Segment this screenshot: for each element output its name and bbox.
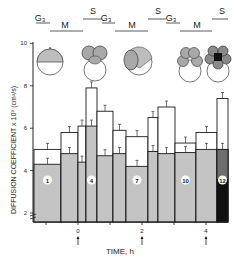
phase-label: M (61, 20, 69, 30)
svg-text:12: 12 (219, 178, 226, 184)
phase-label: G₃ (166, 13, 177, 23)
bar-lower (175, 153, 196, 222)
bar-lower (97, 156, 113, 222)
phase-label: M (193, 20, 201, 30)
phase-label: S (155, 6, 161, 16)
svg-text:10: 10 (182, 178, 189, 184)
bar-lower (34, 164, 61, 222)
phase-label: M (128, 20, 136, 30)
y-tick-label: 4 (24, 168, 28, 174)
bar-lower (148, 152, 158, 222)
bar-lower (86, 126, 97, 222)
one-cell-embryo-icon (37, 47, 63, 75)
bar-series: 1471012 (34, 82, 228, 222)
y-tick-label: 8 (24, 83, 28, 89)
diffusion-chart: G₃MSG₃MSG₃MS (0, 0, 234, 263)
y-axis-label: DIFFUSION COEFFICIENT x 10⁹ (cm²/s) (10, 86, 18, 214)
bar-lower (196, 149, 217, 222)
phase-label: G₃ (101, 13, 112, 23)
phase-label: S (219, 6, 225, 16)
x-tick-label: 4 (204, 228, 208, 234)
bar-lower (158, 154, 175, 222)
phase-label: S (90, 6, 96, 16)
phase-label: G₃ (35, 13, 46, 23)
y-tick-label: 10 (20, 40, 27, 46)
bar-lower (113, 154, 126, 222)
eight-cell-dark-embryo-icon (205, 46, 231, 82)
two-cell-tilted-embryo-icon (124, 47, 152, 75)
x-tick-label: 0 (76, 228, 80, 234)
four-cell-embryo-icon (178, 48, 203, 83)
bar-lower (78, 162, 86, 222)
embryo-icons (37, 46, 231, 82)
bar-lower (61, 154, 78, 222)
cell-cycle-phase-labels: G₃MSG₃MSG₃MS (35, 6, 228, 31)
two-cell-embryo-icon (82, 46, 107, 81)
x-axis-label: TIME, h (106, 247, 134, 256)
y-tick-label: 6 (24, 125, 28, 131)
y-tick-label: 2 (24, 210, 28, 216)
x-tick-label: 2 (140, 228, 144, 234)
bar-lower (126, 166, 148, 222)
